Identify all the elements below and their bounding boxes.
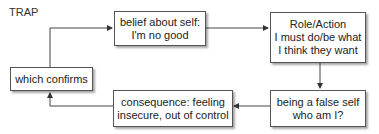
node-text: Role/Action	[290, 18, 346, 31]
edge-consequence-to-which-confirms	[50, 93, 113, 106]
edge-which-confirms-to-belief	[50, 28, 112, 67]
node-text: I think they want	[278, 44, 358, 57]
node-text: belief about self:	[120, 16, 200, 29]
node-which-confirms: which confirms	[10, 67, 93, 91]
node-role-action: Role/Action I must do/be what I think th…	[270, 12, 366, 63]
node-belief-about-self: belief about self: I'm no good	[114, 11, 206, 46]
node-text: I'm no good	[131, 29, 188, 42]
node-text: who am I?	[293, 109, 344, 122]
node-text: I must do/be what	[275, 31, 362, 44]
node-text: consequence: feeling	[121, 96, 225, 109]
node-text: being a false self	[277, 96, 360, 109]
node-consequence: consequence: feeling insecure, out of co…	[113, 90, 233, 127]
node-false-self: being a false self who am I?	[270, 90, 366, 127]
node-text: which confirms	[15, 73, 88, 86]
node-text: insecure, out of control	[117, 109, 228, 122]
